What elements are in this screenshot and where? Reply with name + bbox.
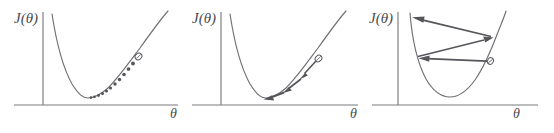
- panel3-x-axis-label: θ: [513, 106, 520, 121]
- panel2-cost-curve: [230, 11, 346, 98]
- panel2-arrow-1: [300, 61, 317, 80]
- panel1-step-dots: [90, 62, 135, 99]
- panel3-zigzag-arrows: [412, 17, 494, 62]
- panel2-y-axis-label: J(θ): [192, 10, 216, 27]
- panel3-y-axis-label: J(θ): [369, 10, 393, 27]
- panel-small-steps: J(θ) θ: [14, 10, 178, 121]
- panel1-x-axis-label: θ: [170, 106, 177, 121]
- panel-large-steps: J(θ) θ: [369, 10, 538, 121]
- panel3-arrow-1: [419, 55, 488, 61]
- gradient-descent-figure: J(θ) θ: [0, 0, 554, 133]
- panel2-arrow-3: [264, 93, 285, 101]
- panel1-start-marker: [134, 52, 143, 61]
- panel2-step-arrows: [264, 61, 317, 101]
- figure-canvas: J(θ) θ: [0, 0, 554, 133]
- panel2-x-axis-label: θ: [350, 106, 357, 121]
- panel3-arrow-3: [412, 17, 491, 37]
- panel1-cost-curve: [52, 11, 168, 98]
- panel1-y-axis-label: J(θ): [14, 10, 38, 27]
- panel3-cost-curve: [410, 11, 506, 97]
- panel-medium-steps: J(θ) θ: [192, 10, 358, 121]
- panel3-arrow-2: [418, 36, 494, 56]
